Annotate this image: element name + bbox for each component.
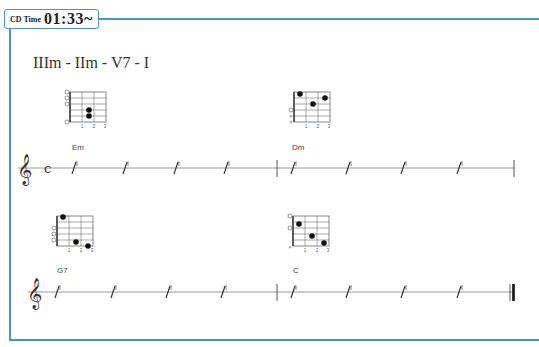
svg-text:×: × <box>289 244 292 250</box>
cd-time-value: 01:33~ <box>44 10 93 28</box>
cd-time-badge: CD Time 01:33~ <box>4 9 99 29</box>
chord-diagram-g7 <box>52 214 94 253</box>
cd-time-label: CD Time <box>10 15 41 24</box>
chord-diagram-dm: × × <box>289 91 331 129</box>
chord-diagram-em <box>65 90 107 129</box>
staff-row-1: 𝄞 c <box>17 154 514 186</box>
treble-clef-icon: 𝄞 <box>17 154 32 186</box>
svg-text:×: × <box>290 119 293 125</box>
common-time-icon: c <box>44 161 51 176</box>
treble-clef-icon: 𝄞 <box>27 278 42 310</box>
chord-diagram-c: × <box>288 214 330 253</box>
staff-row-2: 𝄞 <box>27 278 514 310</box>
